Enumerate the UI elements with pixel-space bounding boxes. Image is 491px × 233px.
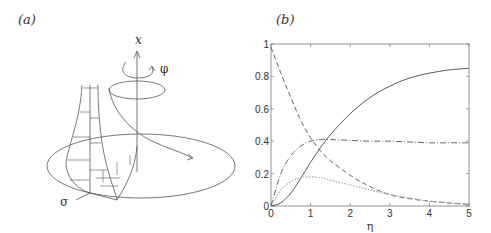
base-disk	[47, 134, 235, 198]
series-dotted-light	[271, 177, 469, 206]
series-dashed	[271, 47, 469, 204]
series-solid	[271, 68, 469, 206]
x-tick-label: 1	[308, 208, 314, 219]
plot-frame	[271, 44, 469, 206]
x-tick-label: 5	[466, 208, 472, 219]
profile-outer	[66, 85, 90, 193]
panel-a-label: (a)	[18, 12, 36, 27]
panel-b-label: (b)	[276, 12, 294, 27]
profile-inner	[98, 85, 117, 200]
x-tick-label: 3	[387, 208, 393, 219]
streamline	[109, 88, 192, 158]
figure: (a) x	[0, 0, 491, 233]
x-tick-label: 2	[347, 208, 353, 219]
label-x: x	[135, 33, 142, 47]
panel-a-diagram	[47, 51, 235, 200]
label-phi: φ	[160, 62, 168, 76]
series-dash-dot	[271, 139, 469, 206]
label-sigma: σ	[60, 195, 68, 209]
y-tick-label: 0.4	[255, 136, 269, 147]
y-tick-label: 0	[263, 201, 269, 212]
y-tick-label: 1	[263, 39, 269, 50]
rotation-arrow	[123, 62, 153, 78]
y-tick-label: 0.8	[255, 71, 269, 82]
x-axis-label: η	[367, 220, 374, 233]
profile-swirl	[117, 146, 137, 200]
radial-axis	[76, 193, 90, 200]
rotation-arrowhead	[149, 66, 155, 71]
x-tick-label: 4	[427, 208, 433, 219]
y-tick-label: 0.2	[255, 169, 269, 180]
y-tick-label: 0.6	[255, 104, 269, 115]
x-tick-label: 0	[268, 208, 274, 219]
chart-b: 01234500.20.40.60.81η	[255, 39, 472, 233]
